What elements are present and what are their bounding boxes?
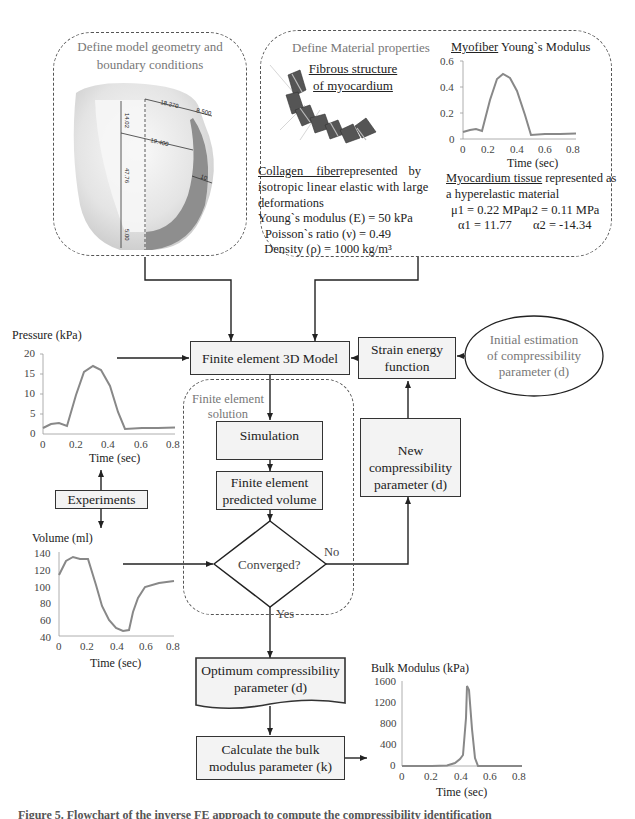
bulk-ytick: 1600 <box>374 675 396 687</box>
bulk-xtick: 0 <box>399 770 405 782</box>
bulk-modulus-chart <box>0 0 635 819</box>
bulk-ytick: 1200 <box>374 696 396 708</box>
bulk-xtick: 0.2 <box>424 770 438 782</box>
bulk-xlabel: Time (sec) <box>436 785 487 800</box>
bulk-ytick: 800 <box>380 717 397 729</box>
bulk-xtick: 0.8 <box>512 770 526 782</box>
bulk-ytick: 0 <box>390 759 396 771</box>
figure-caption: Figure 5. Flowchart of the inverse FE ap… <box>18 808 492 819</box>
bulk-xtick: 0.6 <box>483 770 497 782</box>
bulk-xtick: 0.4 <box>454 770 468 782</box>
bulk-ytick: 400 <box>380 738 397 750</box>
